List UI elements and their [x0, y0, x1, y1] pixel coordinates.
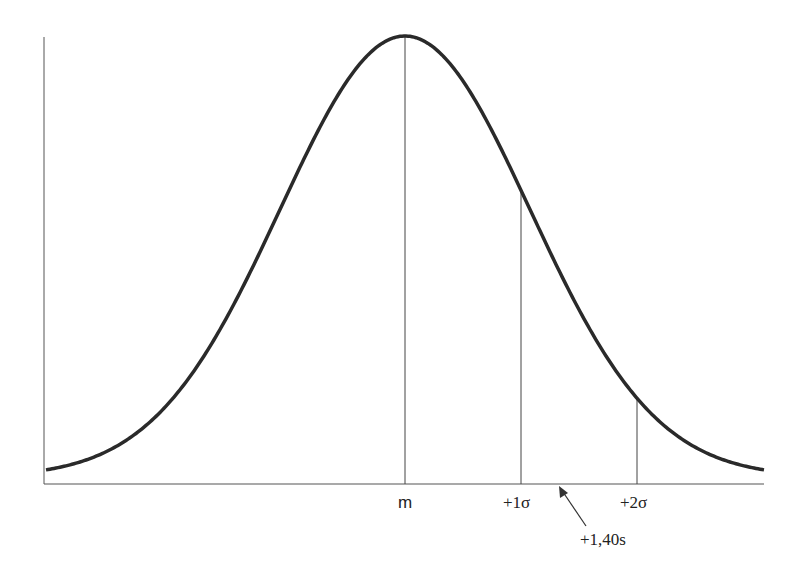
annotation-label: +1,40s	[580, 530, 626, 550]
sigma1-label: +1σ	[503, 493, 530, 513]
normal-curve-diagram: m +1σ +2σ +1,40s	[0, 0, 798, 584]
annotation-arrow	[563, 492, 586, 526]
mean-label: m	[398, 493, 412, 513]
arrow-head-icon	[559, 486, 568, 498]
sigma2-label: +2σ	[620, 493, 647, 513]
